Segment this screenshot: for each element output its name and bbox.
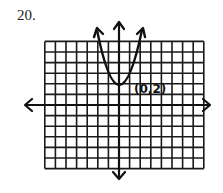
coordinate-plane: (0,2)	[0, 0, 223, 193]
vertex-label: (0,2)	[134, 82, 166, 96]
